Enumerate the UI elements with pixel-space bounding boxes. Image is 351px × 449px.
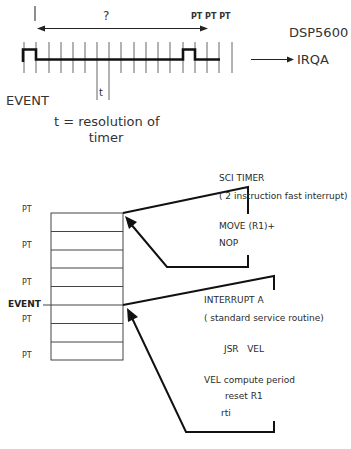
tick-resolution-label: t — [99, 88, 103, 98]
sci-timer-code-line: NOP — [219, 239, 238, 248]
buffer-event-label: EVENT — [8, 300, 41, 309]
timer-ticks — [24, 42, 232, 100]
buffer-stack — [43, 213, 123, 360]
resolution-caption-line2: timer — [54, 131, 158, 144]
sci-timer-code-line: MOVE (R1)+ — [219, 222, 275, 231]
vel-routine-line: reset R1 — [225, 392, 263, 401]
irqa-arrow — [251, 57, 294, 63]
interrupt-a-title: INTERRUPT A — [204, 296, 264, 305]
pt-sequence-label: PT PT PT — [191, 13, 231, 21]
sci-timer-subtitle: ( 2 instruction fast interrupt) — [219, 192, 348, 201]
buffer-pt-label: PT — [22, 316, 32, 324]
buffer-pt-label: PT — [22, 279, 32, 287]
sci-timer-title: SCI TIMER — [219, 174, 264, 183]
interval-question-label: ? — [103, 10, 109, 22]
irqa-label: IRQA — [297, 53, 329, 66]
vel-routine-title: VEL compute period — [204, 376, 295, 385]
buffer-pt-label: PT — [22, 352, 32, 360]
interrupt-a-subtitle: ( standard service routine) — [204, 314, 324, 323]
device-label: DSP5600 — [289, 26, 348, 39]
interval-arrow — [37, 26, 208, 32]
diagram-canvas — [0, 0, 351, 449]
interrupt-a-call: JSR VEL — [224, 345, 264, 354]
event-label: EVENT — [6, 94, 49, 107]
buffer-pt-label: PT — [22, 206, 32, 214]
vel-routine-line: rti — [221, 409, 231, 418]
resolution-caption-line1: t = resolution of — [54, 115, 158, 128]
buffer-pt-label: PT — [22, 242, 32, 250]
